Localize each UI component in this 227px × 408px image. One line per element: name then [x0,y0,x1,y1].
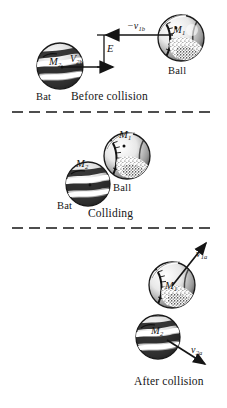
caption-colliding: Colliding [88,208,133,220]
collision-figure: M2 V2b E −v1b M1 Ball Bat Before collisi… [0,0,227,408]
mass-label-ball-after: M1 [165,281,177,292]
object-name-ball-colliding: Ball [113,183,131,194]
mass-label-ball-before: M1 [173,25,185,36]
velocity-label-bat-after: v2a [191,345,202,355]
mass-label-bat-before: M2 [49,57,61,68]
velocity-label-ball-after: v1a [196,249,207,259]
caption-after-collision: After collision [134,376,204,388]
mass-label-bat-colliding: M2 [76,159,88,170]
mass-label-ball-colliding: M1 [119,130,131,141]
velocity-label-bat-before: V2b [70,54,83,64]
caption-before-collision: Before collision [71,91,148,103]
figure-labels: M2 V2b E −v1b M1 Ball Bat Before collisi… [0,0,227,408]
velocity-label-ball-before: −v1b [127,21,145,31]
object-name-ball-before: Ball [168,66,186,77]
object-name-bat-before: Bat [36,92,51,103]
mass-label-bat-after: M2 [151,326,163,337]
object-name-bat-colliding: Bat [57,201,72,212]
offset-label-E: E [107,44,113,55]
